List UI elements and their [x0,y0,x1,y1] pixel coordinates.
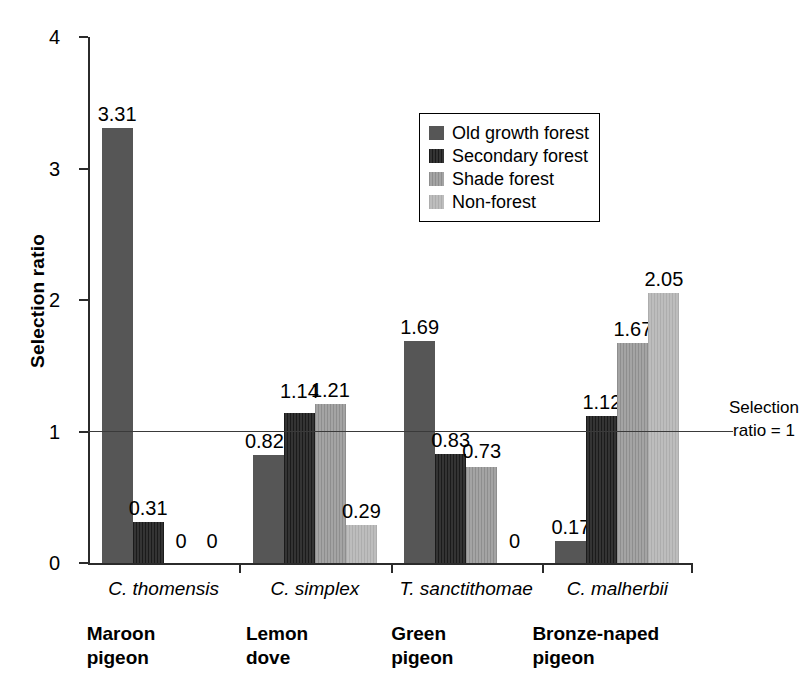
x-group-separator-2 [391,563,393,573]
reference-line [88,431,689,432]
legend-label: Secondary forest [452,147,588,165]
legend-item-old-growth-forest: Old growth forest [429,121,589,144]
bar-value-label: 0.73 [452,441,511,461]
common-name-label-2: Green pigeon [391,622,551,670]
y-tick-1 [79,431,88,433]
common-name-label-1: Lemon dove [246,622,406,670]
legend-swatch-icon [429,126,444,140]
legend-label: Shade forest [452,170,554,188]
common-name-label-3: Bronze-naped pigeon [532,622,692,670]
bar-Tsanctithomae-secondary-forest [435,454,466,563]
bar-value-label: 0.31 [119,498,178,518]
bar-value-label: 1.21 [301,380,360,400]
bar-Cmalherbii-shade-forest [617,343,648,563]
bar-Csimplex-old-growth-forest [253,455,284,563]
y-tick-label-4: 4 [0,27,60,47]
y-tick-2 [79,299,88,301]
bar-Csimplex-shade-forest [315,404,346,563]
reference-line-label: Selection ratio = 1 [722,397,802,443]
legend-item-non-forest: Non-forest [429,190,589,213]
y-tick-0 [79,562,88,564]
legend-label: Non-forest [452,193,536,211]
y-tick-3 [79,168,88,170]
x-axis-end-tick [691,563,693,573]
bar-value-label: 0.29 [332,501,391,521]
plot-area: 3.310.31000.821.141.210.291.690.830.7300… [88,37,693,563]
legend-item-shade-forest: Shade forest [429,167,589,190]
legend-swatch-icon [429,172,444,186]
selection-ratio-bar-chart: Selection ratio 01234 3.310.31000.821.14… [0,0,802,692]
bar-Cmalherbii-non-forest [648,293,679,563]
x-group-separator-1 [239,563,241,573]
bar-Cmalherbii-old-growth-forest [555,541,586,563]
legend-label: Old growth forest [452,124,589,142]
bar-Csimplex-non-forest [346,525,377,563]
bar-value-label: 0 [485,531,544,551]
y-tick-label-2: 2 [0,290,60,310]
y-tick-4 [79,36,88,38]
common-name-label-0: Maroon pigeon [87,622,247,670]
legend: Old growth forestSecondary forestShade f… [419,113,600,222]
bar-value-label: 1.69 [390,317,449,337]
bar-Cmalherbii-secondary-forest [586,416,617,563]
y-tick-label-1: 1 [0,422,60,442]
bar-value-label: 3.31 [88,104,147,124]
bar-value-label: 2.05 [634,269,693,289]
x-group-separator-3 [542,563,544,573]
legend-item-secondary-forest: Secondary forest [429,144,589,167]
bar-value-label: 0 [183,531,242,551]
species-label-Cmalherbii: C. malherbii [517,578,717,600]
y-tick-label-0: 0 [0,553,60,573]
y-tick-label-3: 3 [0,159,60,179]
legend-swatch-icon [429,195,444,209]
bar-Csimplex-secondary-forest [284,413,315,563]
legend-swatch-icon [429,149,444,163]
bar-Tsanctithomae-old-growth-forest [404,341,435,563]
